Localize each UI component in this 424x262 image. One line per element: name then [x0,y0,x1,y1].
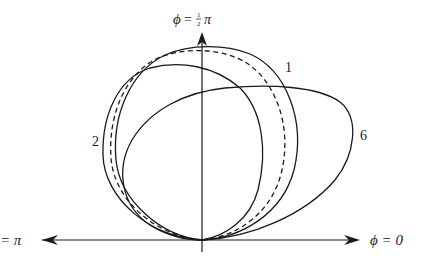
curve-6 [123,86,353,240]
svg-text:1: 1 [197,11,201,19]
svg-text:=: = [184,12,192,27]
curve-6-label: 6 [360,128,367,143]
radiation-pattern-diagram: ϕ = 1 2 π ϕ = 0 = π 1 2 6 [0,0,424,262]
curve-2-label: 2 [92,134,99,149]
vertical-axis-label: ϕ = 1 2 π [173,11,212,28]
curve-1 [115,47,297,240]
right-axis-label: ϕ = 0 [370,232,403,248]
curve-1-label: 1 [285,60,292,75]
vertical-axis [197,32,207,252]
left-axis-label: = π [0,232,22,248]
svg-text:ϕ: ϕ [173,11,181,27]
svg-text:π: π [204,12,212,27]
svg-text:2: 2 [197,20,201,28]
